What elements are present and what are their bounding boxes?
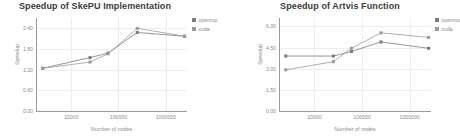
y-axis-tick-label: 0.60: [23, 87, 33, 93]
legend-item-label: openmp: [199, 17, 218, 23]
x-axis-tick-label: 1000000: [156, 114, 176, 120]
legend-swatch-icon: [435, 27, 439, 31]
chart-title: Speedup of SkePU Implementation: [0, 1, 190, 11]
y-axis-tick-label: 6.00: [266, 23, 276, 29]
chart-panel-artvis: Speedup of Artvis Function 6.004.503.001…: [227, 0, 454, 139]
y-axis-tick-label: 0.00: [266, 108, 276, 114]
data-point-marker: [88, 61, 91, 64]
x-axis-tick-label: 100000: [110, 114, 127, 120]
legend-item-label: openmp: [442, 17, 460, 23]
y-axis-tick-label: 2.40: [23, 25, 33, 31]
data-point-marker: [332, 55, 335, 58]
data-point-marker: [284, 55, 287, 58]
x-axis-title: Number of nodes: [279, 126, 431, 132]
y-axis-tick-label: 1.50: [266, 87, 276, 93]
data-point-marker: [350, 47, 353, 50]
legend-item-label: cuda: [442, 26, 453, 32]
data-point-marker: [427, 47, 430, 50]
y-axis-title: Speedup: [14, 44, 20, 65]
legend-swatch-icon: [435, 18, 439, 22]
y-axis-tick-label: 0.00: [23, 108, 33, 114]
data-point-marker: [88, 56, 91, 59]
series-line-cuda: [286, 33, 429, 70]
x-axis-title: Number of nodes: [36, 126, 187, 132]
data-point-marker: [183, 35, 186, 38]
series-line-openmp: [43, 32, 185, 68]
y-axis-tick-label: 1.20: [23, 67, 33, 73]
chart-title: Speedup of Artvis Function: [245, 1, 435, 11]
legend-swatch-icon: [192, 27, 196, 31]
y-axis-tick-label: 4.50: [266, 45, 276, 51]
legend-item-label: cuda: [199, 26, 210, 32]
legend-item-cuda[interactable]: cuda: [435, 26, 460, 32]
data-point-marker: [332, 60, 335, 63]
legend-item-openmp[interactable]: openmp: [435, 17, 460, 23]
data-point-marker: [350, 50, 353, 53]
series-line-openmp: [286, 42, 429, 56]
y-axis-tick-label: 1.80: [23, 46, 33, 52]
legend-swatch-icon: [192, 18, 196, 22]
chart-legend: openmpcuda: [435, 17, 460, 32]
series-layer: [280, 18, 431, 111]
data-point-marker: [379, 31, 382, 34]
y-axis-title: Speedup: [257, 44, 263, 65]
legend-item-openmp[interactable]: openmp: [192, 17, 217, 23]
data-point-marker: [427, 36, 430, 39]
x-axis-tick-label: 10000: [64, 114, 78, 120]
x-axis-tick-label: 10000: [307, 114, 321, 120]
data-point-marker: [41, 67, 44, 70]
plot-area: 6.004.503.001.500.00100001000001000000: [279, 18, 431, 112]
chart-panel-skepu: Speedup of SkePU Implementation 2.401.80…: [0, 0, 227, 139]
x-axis-tick-label: 100000: [353, 114, 370, 120]
data-point-marker: [106, 52, 109, 55]
data-point-marker: [136, 31, 139, 34]
data-point-marker: [284, 68, 287, 71]
data-point-marker: [379, 40, 382, 43]
y-axis-tick-label: 3.00: [266, 66, 276, 72]
x-axis-tick-label: 1000000: [400, 114, 420, 120]
chart-legend: openmpcuda: [192, 17, 217, 32]
series-layer: [37, 18, 187, 111]
data-point-marker: [136, 27, 139, 30]
legend-item-cuda[interactable]: cuda: [192, 26, 217, 32]
plot-area: 2.401.801.200.600.00100001000001000000: [36, 18, 187, 112]
